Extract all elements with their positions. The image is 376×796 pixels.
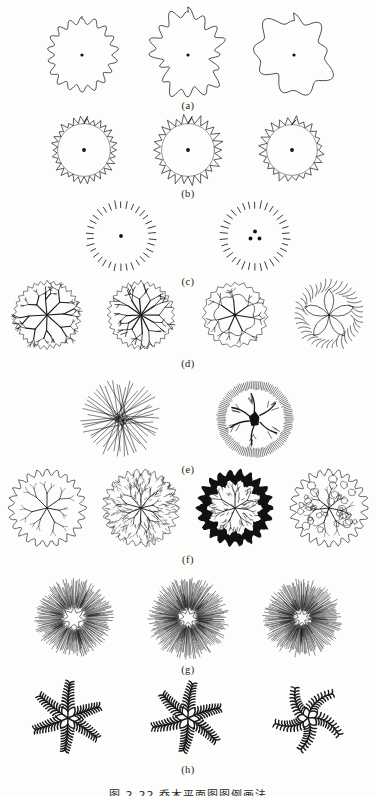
tree-symbol-dendritic-fine-branch <box>2 272 92 358</box>
tree-symbol-cell <box>2 462 92 554</box>
tree-symbol-cell <box>205 196 305 276</box>
figure-row-f-label: (f) <box>0 555 376 566</box>
tree-symbol-dendritic-heavy-center <box>96 272 186 358</box>
tree-symbol-spiky-ring-fine <box>38 112 130 188</box>
tree-symbol-scallop-16-lobe-irregular <box>140 10 236 100</box>
tree-symbol-radial-fan-small-core <box>252 572 352 664</box>
tree-symbol-cell <box>246 10 342 100</box>
tree-symbol-scallop-18-lobe <box>34 10 130 100</box>
tree-symbol-radial-fan-star-core <box>138 572 238 664</box>
tree-symbol-cell <box>71 196 171 276</box>
figure-row-d: (d) <box>0 272 376 370</box>
tree-symbol-cell <box>38 112 130 188</box>
figure-row-g-items <box>0 572 376 664</box>
tree-symbol-scallop-9-lobe-broad <box>246 10 342 100</box>
tree-symbol-straight-radial-burst <box>74 374 168 464</box>
tree-symbol-tick-ring-triple-trunk <box>205 196 305 276</box>
tree-symbol-petal-lobe-curl <box>284 272 374 358</box>
tree-symbol-cell <box>190 462 280 554</box>
tree-symbol-cell <box>190 272 280 358</box>
figure-row-f-items <box>0 462 376 554</box>
figure-row-h-items <box>0 672 376 764</box>
tree-symbol-cell <box>138 572 238 664</box>
figure-row-c-items <box>0 196 376 276</box>
tree-symbol-radial-fan-open-core <box>24 572 124 664</box>
tree-symbol-cell <box>74 374 168 464</box>
figure-row-h: (h) <box>0 672 376 776</box>
figure-row-f: (f) <box>0 462 376 566</box>
tree-symbol-cell <box>246 112 338 188</box>
tree-symbol-cell <box>284 462 374 554</box>
tree-symbol-tick-ring-single-trunk <box>71 196 171 276</box>
tree-symbol-cell <box>142 112 234 188</box>
tree-symbol-cell <box>208 374 302 464</box>
tree-symbol-cloud-outline-light-fill <box>2 462 92 554</box>
figure-row-a: (a) <box>0 10 376 112</box>
tree-symbol-cell <box>2 272 92 358</box>
figure-row-d-items <box>0 272 376 358</box>
figure-row-b: (b) <box>0 112 376 200</box>
tree-symbol-cell <box>96 272 186 358</box>
tree-symbol-cell <box>24 572 124 664</box>
tree-symbol-loop-branch-open <box>190 272 280 358</box>
tree-symbol-palm-6-frond-angled <box>136 672 240 764</box>
tree-symbol-branch-with-dense-rim <box>208 374 302 464</box>
figure-row-d-label: (d) <box>0 359 376 370</box>
tree-symbol-cell <box>34 10 130 100</box>
tree-symbol-dense-stipple-texture <box>96 462 186 554</box>
tree-symbol-cell <box>256 672 360 764</box>
tree-symbol-cell <box>136 672 240 764</box>
tree-symbol-scattered-clump-texture <box>284 462 374 554</box>
figure-row-a-items <box>0 10 376 100</box>
figure-row-g: (g) <box>0 572 376 676</box>
tree-symbol-palm-5-frond-curved <box>256 672 360 764</box>
tree-symbol-palm-6-frond-straight <box>16 672 120 764</box>
tree-symbol-spiky-ring-medium <box>142 112 234 188</box>
figure-row-h-label: (h) <box>0 765 376 776</box>
figure-row-a-label: (a) <box>0 101 376 112</box>
tree-symbol-cell <box>16 672 120 764</box>
tree-symbol-spiky-ring-coarse <box>246 112 338 188</box>
figure-page: (a) (b) (c) (d) (e) (f) (g) (h) 图 2-22 乔… <box>0 0 376 796</box>
figure-row-b-items <box>0 112 376 188</box>
tree-symbol-cell <box>252 572 352 664</box>
tree-symbol-cell <box>96 462 186 554</box>
figure-caption: 图 2-22 乔木平面图图例画法 <box>0 786 376 796</box>
tree-symbol-cell <box>284 272 374 358</box>
tree-symbol-solid-black-shadow-edge <box>190 462 280 554</box>
tree-symbol-cell <box>140 10 236 100</box>
figure-row-e: (e) <box>0 374 376 476</box>
figure-row-e-items <box>0 374 376 464</box>
